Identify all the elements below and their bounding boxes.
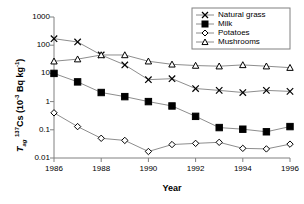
series-potatoes <box>51 110 293 155</box>
x-tick-label: 1994 <box>225 164 261 173</box>
y-axis-title: Tag 137Cs (10-3 Bq kg-1) <box>14 59 27 152</box>
marker-diamond <box>74 123 80 129</box>
chart-figure: 10001001010.10.0119861988199019921994199… <box>0 0 304 204</box>
x-tick-label: 1990 <box>130 164 166 173</box>
marker-diamond <box>192 140 198 146</box>
marker-square <box>287 123 293 129</box>
legend-label: Potatoes <box>218 28 250 37</box>
marker-diamond <box>51 110 57 116</box>
series-milk <box>51 70 293 135</box>
marker-diamond <box>287 141 293 147</box>
marker-square <box>192 113 198 119</box>
marker-diamond <box>216 139 222 145</box>
legend-label: Natural grass <box>218 10 266 19</box>
y-tick-label: 0.01 <box>20 153 50 162</box>
marker-square <box>145 98 151 104</box>
marker-square <box>169 103 175 109</box>
marker-diamond <box>98 135 104 141</box>
marker-square <box>240 126 246 132</box>
y-axis-title-symbol: Tag <box>15 139 25 152</box>
series-mushrooms <box>51 52 293 71</box>
marker-diamond <box>169 141 175 147</box>
marker-diamond <box>240 145 246 151</box>
y-tick-label: 100 <box>20 40 50 49</box>
marker-square <box>98 89 104 95</box>
marker-square <box>216 124 222 130</box>
marker-square <box>122 93 128 99</box>
legend-label: Mushrooms <box>218 37 260 46</box>
x-tick-label: 1988 <box>83 164 119 173</box>
x-tick-label: 1986 <box>36 164 72 173</box>
x-tick-label: 1996 <box>272 164 304 173</box>
x-axis-title: Year <box>54 183 290 193</box>
marker-square <box>202 21 208 27</box>
legend-label: Milk <box>218 19 232 28</box>
marker-diamond <box>263 146 269 152</box>
y-tick-label: 1000 <box>20 12 50 21</box>
x-tick-label: 1992 <box>178 164 214 173</box>
marker-diamond <box>122 137 128 143</box>
marker-diamond <box>145 148 151 154</box>
marker-square <box>74 79 80 85</box>
marker-square <box>263 129 269 135</box>
marker-square <box>51 70 57 76</box>
